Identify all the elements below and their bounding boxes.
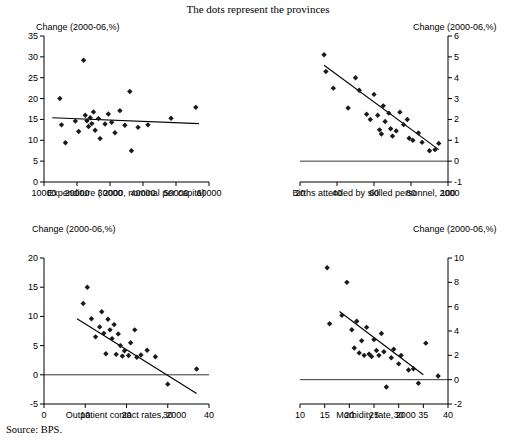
data-point bbox=[97, 324, 102, 329]
y-tick-label: 5 bbox=[33, 156, 38, 166]
x-tick-label: 10 bbox=[295, 410, 305, 420]
data-point bbox=[379, 331, 384, 336]
data-point bbox=[129, 148, 134, 153]
x-tick-label: 15 bbox=[320, 410, 330, 420]
x-axis-label-expenditure: Expenditure ( 2000, nominal per capita) bbox=[47, 188, 205, 198]
data-point bbox=[331, 85, 336, 90]
y-tick-label: 30 bbox=[28, 52, 38, 62]
data-point bbox=[102, 121, 107, 126]
x-axis-label-births: Births attended by skilled personnel, 20… bbox=[292, 188, 459, 198]
data-point bbox=[405, 117, 410, 122]
y-tick-label: 6 bbox=[454, 31, 459, 41]
data-point bbox=[436, 141, 441, 146]
y-tick-label: 4 bbox=[454, 326, 459, 336]
data-point bbox=[111, 322, 116, 327]
panel-births: -1012345620406080100Births attended by s… bbox=[292, 31, 462, 198]
y-tick-label: 2 bbox=[454, 350, 459, 360]
data-point bbox=[361, 353, 366, 358]
x-axis-label-morbidity: Morbidity rate, 2000 bbox=[336, 410, 416, 420]
y-tick-label: 5 bbox=[33, 341, 38, 351]
data-point bbox=[349, 327, 354, 332]
data-point bbox=[389, 355, 394, 360]
y-tick-label: -2 bbox=[454, 399, 462, 409]
data-point bbox=[132, 327, 137, 332]
data-point bbox=[390, 133, 395, 138]
data-point bbox=[344, 280, 349, 285]
y-tick-label: 15 bbox=[28, 114, 38, 124]
y-tick-label: 3 bbox=[454, 94, 459, 104]
data-point bbox=[396, 361, 401, 366]
data-point bbox=[364, 112, 369, 117]
data-point bbox=[107, 327, 112, 332]
data-point bbox=[97, 136, 102, 141]
source-note: Source: BPS. bbox=[6, 424, 62, 435]
data-point bbox=[165, 381, 170, 386]
data-point bbox=[93, 334, 98, 339]
data-point bbox=[128, 340, 133, 345]
y-tick-label: 6 bbox=[454, 302, 459, 312]
data-point bbox=[91, 109, 96, 114]
data-point bbox=[427, 148, 432, 153]
data-point bbox=[103, 351, 108, 356]
data-point bbox=[105, 317, 110, 322]
y-tick-label: 15 bbox=[28, 282, 38, 292]
data-point bbox=[153, 354, 158, 359]
y-tick-label: 8 bbox=[454, 277, 459, 287]
data-point bbox=[85, 285, 90, 290]
data-point bbox=[126, 353, 131, 358]
x-axis-label-outpatient: Outpatient contact rates, 2000 bbox=[66, 410, 187, 420]
x-tick-label: 40 bbox=[443, 410, 453, 420]
panel-morbidity: -2024681010152025303540Morbidity rate, 2… bbox=[295, 253, 464, 420]
data-point bbox=[416, 130, 421, 135]
data-point bbox=[376, 353, 381, 358]
data-point bbox=[63, 140, 68, 145]
data-point bbox=[89, 316, 94, 321]
panel-expenditure: 0510152025303510000200003000040000500006… bbox=[28, 31, 222, 198]
data-point bbox=[109, 336, 114, 341]
trend-line bbox=[324, 65, 439, 149]
data-point bbox=[57, 96, 62, 101]
y-tick-label: -1 bbox=[454, 177, 462, 187]
data-point bbox=[127, 89, 132, 94]
y-tick-label: 35 bbox=[28, 31, 38, 41]
data-point bbox=[116, 331, 121, 336]
y-tick-label: 0 bbox=[33, 177, 38, 187]
data-point bbox=[144, 348, 149, 353]
x-tick-label: 0 bbox=[41, 410, 46, 420]
data-point bbox=[374, 348, 379, 353]
data-point bbox=[59, 122, 64, 127]
data-point bbox=[106, 111, 111, 116]
scatter-plots-canvas: 0510152025303510000200003000040000500006… bbox=[0, 0, 516, 444]
y-tick-label: 2 bbox=[454, 114, 459, 124]
data-point bbox=[388, 126, 393, 131]
data-point bbox=[81, 57, 86, 62]
y-tick-label: 20 bbox=[28, 94, 38, 104]
x-tick-label: 35 bbox=[418, 410, 428, 420]
panel-outpatient: -505101520010203040Outpatient contact ra… bbox=[28, 253, 214, 420]
y-tick-label: 0 bbox=[33, 370, 38, 380]
data-point bbox=[353, 75, 358, 80]
data-point bbox=[101, 331, 106, 336]
data-point bbox=[135, 125, 140, 130]
data-point bbox=[416, 381, 421, 386]
data-point bbox=[321, 52, 326, 57]
data-point bbox=[323, 69, 328, 74]
data-point bbox=[345, 105, 350, 110]
data-point bbox=[375, 113, 380, 118]
data-point bbox=[381, 349, 386, 354]
data-point bbox=[419, 140, 424, 145]
y-tick-label: 25 bbox=[28, 73, 38, 83]
data-point bbox=[80, 301, 85, 306]
data-point bbox=[394, 128, 399, 133]
data-point bbox=[122, 123, 127, 128]
data-point bbox=[364, 325, 369, 330]
data-point bbox=[83, 113, 88, 118]
data-point bbox=[117, 108, 122, 113]
data-point bbox=[193, 105, 198, 110]
x-tick-label: 40 bbox=[204, 410, 214, 420]
data-point bbox=[411, 366, 416, 371]
data-point bbox=[359, 338, 364, 343]
data-point bbox=[384, 384, 389, 389]
data-point bbox=[352, 345, 357, 350]
figure-page: The dots represent the provinces Change … bbox=[0, 0, 516, 444]
